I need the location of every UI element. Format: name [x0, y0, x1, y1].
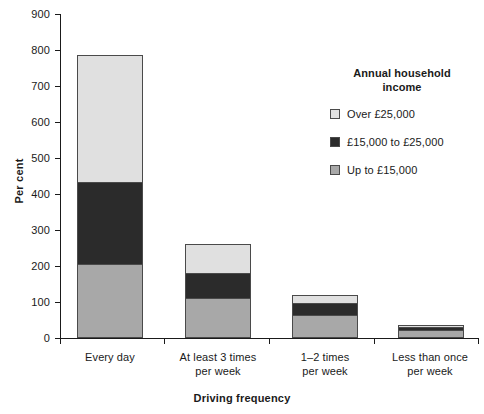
y-tick-200	[55, 266, 61, 267]
y-tick-400	[55, 194, 61, 195]
x-tick-label-line: per week	[370, 364, 484, 378]
legend-item-up-to-15000: Up to £15,000	[330, 164, 480, 176]
x-tick-label-line: per week	[265, 364, 385, 378]
x-tick-label-line: per week	[158, 364, 278, 378]
legend-item-15000-to-25000: £15,000 to £25,000	[330, 136, 480, 148]
x-tick-label-1-2-times-per-week: 1–2 times per week	[265, 350, 385, 378]
x-tick-0	[60, 338, 61, 344]
x-tick-3	[374, 338, 375, 344]
legend-items: Over £25,000 £15,000 to £25,000 Up to £1…	[330, 108, 480, 176]
legend-swatch-icon	[330, 137, 340, 147]
y-tick-500	[55, 158, 61, 159]
bar-segment-over-25000	[185, 244, 251, 274]
bar-segment-15000-to-25000	[77, 182, 143, 265]
legend-item-label: Up to £15,000	[347, 164, 417, 176]
y-tick-label-700: 700	[16, 81, 50, 92]
x-tick-label-line: Every day	[50, 350, 170, 364]
y-tick-700	[55, 86, 61, 87]
legend-swatch-icon	[330, 165, 340, 175]
y-tick-label-500: 500	[16, 153, 50, 164]
x-axis-title: Driving frequency	[0, 392, 484, 404]
bar-segment-up-to-15000	[292, 315, 358, 338]
y-tick-label-800: 800	[16, 45, 50, 56]
bar-segment-over-25000	[77, 55, 143, 183]
x-tick-label-less-than-once-per-week: Less than once per week	[370, 350, 484, 378]
x-tick-label-every-day: Every day	[50, 350, 170, 364]
x-tick-label-line: At least 3 times	[158, 350, 278, 364]
bar-segment-up-to-15000	[77, 264, 143, 338]
y-tick-label-100: 100	[16, 297, 50, 308]
bar-less-than-once-per-week	[398, 325, 464, 338]
y-tick-label-600: 600	[16, 117, 50, 128]
bar-segment-15000-to-25000	[185, 273, 251, 299]
bar-1-2-times-per-week	[292, 295, 358, 338]
x-tick-4	[478, 338, 479, 344]
stacked-bar-chart: Per cent 900 800 700 600 500 400 300 200…	[0, 0, 484, 414]
y-tick-900	[55, 14, 61, 15]
bar-segment-up-to-15000	[398, 330, 464, 338]
x-tick-label-line: Less than once	[370, 350, 484, 364]
bar-at-least-3-times-per-week	[185, 244, 251, 338]
x-tick-2	[269, 338, 270, 344]
y-axis-line	[60, 14, 61, 338]
legend-item-label: £15,000 to £25,000	[347, 136, 444, 148]
legend: Annual household income Over £25,000 £15…	[330, 66, 480, 192]
y-tick-label-900: 900	[16, 9, 50, 20]
x-tick-label-line: 1–2 times	[265, 350, 385, 364]
y-tick-600	[55, 122, 61, 123]
x-tick-1	[164, 338, 165, 344]
x-tick-label-at-least-3-times-per-week: At least 3 times per week	[158, 350, 278, 378]
legend-item-over-25000: Over £25,000	[330, 108, 480, 120]
legend-swatch-icon	[330, 109, 340, 119]
legend-title-line: Annual household	[332, 66, 472, 80]
y-tick-label-400: 400	[16, 189, 50, 200]
legend-title-line: income	[332, 80, 472, 94]
y-tick-label-200: 200	[16, 261, 50, 272]
y-tick-label-300: 300	[16, 225, 50, 236]
y-tick-300	[55, 230, 61, 231]
bar-segment-up-to-15000	[185, 298, 251, 338]
y-tick-800	[55, 50, 61, 51]
legend-title: Annual household income	[332, 66, 472, 94]
bar-every-day	[77, 55, 143, 338]
y-tick-100	[55, 302, 61, 303]
legend-item-label: Over £25,000	[347, 108, 415, 120]
y-tick-label-0: 0	[16, 333, 50, 344]
